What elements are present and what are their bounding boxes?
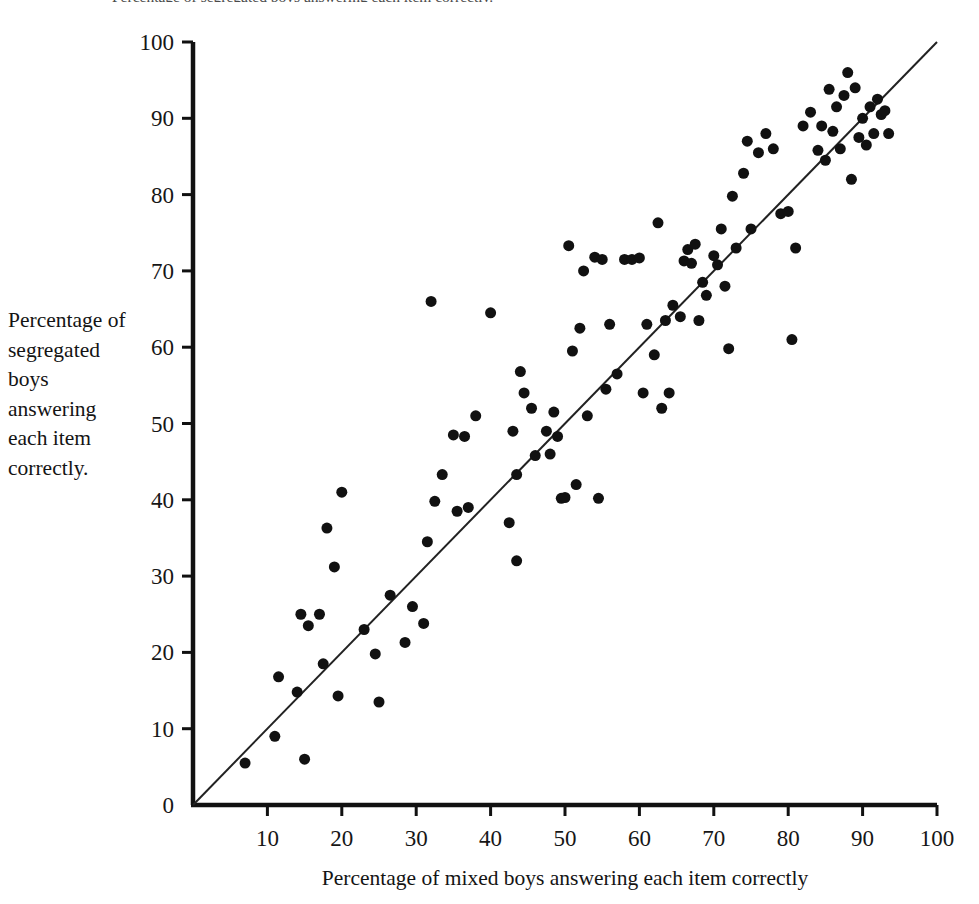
data-point [768,143,779,154]
data-point [519,387,530,398]
data-point [675,311,686,322]
data-point [753,147,764,158]
data-point [805,107,816,118]
data-point [783,206,794,217]
data-point [321,523,332,534]
data-point [641,319,652,330]
data-point [571,479,582,490]
x-axis-tick-label: 40 [479,827,502,850]
data-point [295,609,306,620]
data-point [463,502,474,513]
data-point [240,758,251,769]
data-point [667,300,678,311]
data-point [333,690,344,701]
x-axis-tick-label: 10 [256,827,279,850]
data-point [693,315,704,326]
data-point [574,323,585,334]
data-point [839,90,850,101]
data-point [868,128,879,139]
data-point [850,82,861,93]
data-point [816,120,827,131]
data-point [292,687,303,698]
data-point [798,120,809,131]
data-point [567,346,578,357]
data-point [422,536,433,547]
data-point [507,426,518,437]
data-point [548,407,559,418]
data-point [485,307,496,318]
data-point [400,637,411,648]
x-axis-tick-label: 70 [702,827,725,850]
data-point [470,410,481,421]
data-point [812,145,823,156]
x-axis-title: Percentage of mixed boys answering each … [193,866,937,892]
data-point [597,254,608,265]
data-point [846,174,857,185]
data-point [448,429,459,440]
data-point [831,101,842,112]
data-point [515,366,526,377]
data-points-group [240,67,895,769]
data-point [738,168,749,179]
data-point [656,403,667,414]
data-point [742,136,753,147]
data-point [303,620,314,631]
data-point [660,315,671,326]
x-axis-tick-label: 30 [405,827,428,850]
x-axis-tick-label: 60 [628,827,651,850]
data-point [664,387,675,398]
data-point [638,387,649,398]
data-point [697,277,708,288]
data-point [452,506,463,517]
x-axis-tick-label: 50 [554,827,577,850]
data-point [560,492,571,503]
data-point [827,126,838,137]
data-point [418,618,429,629]
data-point [824,84,835,95]
data-point [835,143,846,154]
data-point [541,426,552,437]
data-point [336,487,347,498]
data-point [374,697,385,708]
data-point [653,217,664,228]
data-point [273,671,284,682]
data-point [437,469,448,480]
data-point [429,496,440,507]
data-point [314,609,325,620]
data-point [593,493,604,504]
y-axis-tick-label: 70 [151,259,174,282]
data-point [820,155,831,166]
data-point [426,296,437,307]
data-point [723,343,734,354]
data-point [649,349,660,360]
data-point [786,334,797,345]
x-axis-tick-label: 20 [330,827,353,850]
data-point [690,239,701,250]
y-axis-tick-label: 90 [151,107,174,130]
data-point [634,252,645,263]
y-axis-tick-label: 80 [151,183,174,206]
data-point [857,113,868,124]
data-point [552,431,563,442]
x-axis-tick-label: 100 [920,827,955,850]
data-point [299,754,310,765]
data-point [563,240,574,251]
data-point [318,658,329,669]
data-point [269,731,280,742]
data-point [582,410,593,421]
data-point [760,128,771,139]
data-point [686,258,697,269]
data-point [701,290,712,301]
y-axis-tick-label: 50 [151,412,174,435]
data-point [731,243,742,254]
data-point [385,590,396,601]
data-point [861,140,872,151]
scatter-plot-figure: 0102030405060708090100102030405060708090… [0,0,979,904]
data-point [511,469,522,480]
data-point [879,105,890,116]
data-point [719,281,730,292]
data-point [727,191,738,202]
y-axis-tick-label: 40 [151,488,174,511]
data-point [578,265,589,276]
plot-canvas [0,0,979,904]
